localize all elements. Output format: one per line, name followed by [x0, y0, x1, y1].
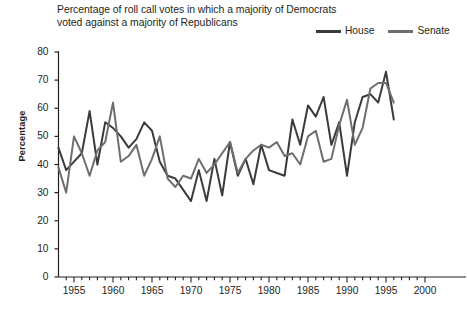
- series-line-senate: [58, 83, 393, 193]
- series-line-house: [58, 72, 393, 201]
- chart-container: Percentage of roll call votes in which a…: [0, 0, 467, 313]
- plot-area: [0, 0, 467, 313]
- axes: [55, 52, 467, 283]
- data-series: [58, 72, 393, 201]
